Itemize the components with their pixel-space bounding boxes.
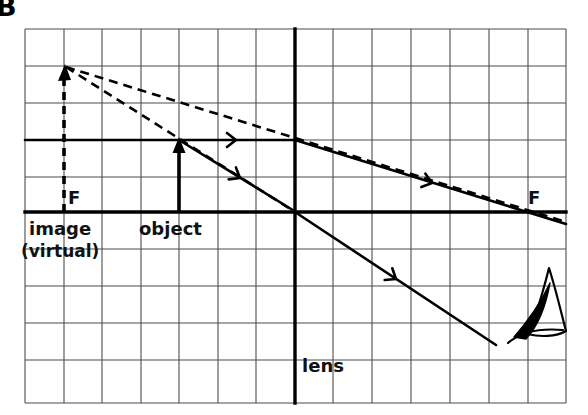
eye-icon — [508, 268, 566, 343]
ray-diagram-figure: B — [0, 0, 588, 415]
label-image-qualifier: (virtual) — [21, 241, 99, 261]
principal-axes — [25, 29, 566, 403]
label-lens: lens — [302, 355, 344, 376]
diagram-canvas — [0, 0, 588, 415]
ray-direction-markers — [227, 133, 434, 285]
label-image: image — [29, 218, 91, 239]
label-focal-point-right: F — [528, 187, 540, 208]
image-arrow-head — [58, 64, 71, 81]
label-focal-point-left: F — [68, 187, 80, 208]
object-arrow — [173, 137, 186, 212]
center-ray-incident — [179, 140, 296, 212]
label-object: object — [139, 218, 202, 239]
